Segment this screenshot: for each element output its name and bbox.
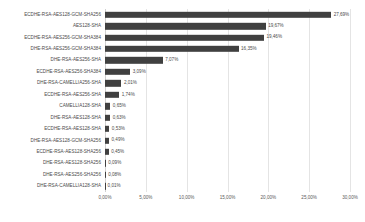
bar-wrapper: 7,07%: [105, 57, 178, 63]
bar[interactable]: [105, 103, 110, 109]
category-label: DHE-RSA-AES128-SHA256: [43, 161, 101, 166]
bar[interactable]: [105, 23, 266, 29]
bar[interactable]: [105, 160, 106, 166]
bar[interactable]: [105, 126, 109, 132]
category-label: ECDHE-RSA-AES256-GCM-SHA384: [24, 35, 101, 40]
bar[interactable]: [105, 69, 130, 75]
bar-row[interactable]: DHE-RSA-CAMELLIA128-SHA0,01%: [105, 181, 350, 192]
value-label: 7,07%: [165, 58, 178, 63]
category-label: DHE-RSA-AES128-SHA: [51, 115, 101, 120]
bar-chart: ECDHE-RSA-AES128-GCM-SHA25627,69%AES128-…: [0, 0, 365, 222]
bar-row[interactable]: DHE-RSA-AES128-GCM-SHA2560,49%: [105, 135, 350, 146]
bar-row[interactable]: ECDHE-RSA-AES128-SHA0,53%: [105, 123, 350, 134]
bar-row[interactable]: ECDHE-RSA-AES256-SHA3843,09%: [105, 66, 350, 77]
value-label: 3,09%: [133, 70, 146, 75]
value-label: 16,35%: [241, 47, 257, 52]
bar-wrapper: 0,45%: [105, 149, 124, 155]
bar-row[interactable]: DHE-RSA-AES128-SHA2560,09%: [105, 158, 350, 169]
value-label: 19,46%: [266, 35, 282, 40]
bar-row[interactable]: ECDHE-RSA-AES128-GCM-SHA25627,69%: [105, 9, 350, 20]
bar-wrapper: 0,53%: [105, 126, 125, 132]
value-label: 0,63%: [113, 115, 126, 120]
bar-wrapper: 0,63%: [105, 114, 126, 120]
category-label: DHE-RSA-AES256-GCM-SHA384: [31, 47, 101, 52]
bar[interactable]: [105, 137, 109, 143]
x-axis-tick-label: 5,00%: [139, 196, 152, 201]
category-label: ECDHE-RSA-AES256-SHA384: [36, 70, 101, 75]
bar-row[interactable]: DHE-RSA-AES256-GCM-SHA38416,35%: [105, 43, 350, 54]
bar-row[interactable]: DHE-RSA-AES128-SHA0,63%: [105, 112, 350, 123]
bar[interactable]: [105, 92, 119, 98]
bar[interactable]: [105, 172, 106, 178]
bar[interactable]: [105, 46, 239, 52]
x-axis: 0,00%5,00%10,00%15,00%20,00%25,00%30,00%: [105, 194, 350, 208]
category-label: ECDHE-RSA-AES128-SHA256: [36, 150, 101, 155]
category-label: DHE-RSA-AES256-SHA256: [43, 173, 101, 178]
x-axis-tick-label: 15,00%: [220, 196, 236, 201]
category-label: DHE-RSA-CAMELLIA128-SHA: [37, 184, 101, 189]
category-label: AES128-SHA: [73, 24, 101, 29]
bar-row[interactable]: CAMELLIA128-SHA0,65%: [105, 101, 350, 112]
x-axis-tick-label: 30,00%: [342, 196, 358, 201]
x-axis-tick-label: 25,00%: [301, 196, 317, 201]
bar-wrapper: 27,69%: [105, 12, 349, 18]
bar-wrapper: 0,08%: [105, 172, 121, 178]
bar-wrapper: 2,01%: [105, 80, 137, 86]
x-axis-tick-label: 20,00%: [261, 196, 277, 201]
bar-wrapper: 0,65%: [105, 103, 126, 109]
bar-wrapper: 0,49%: [105, 137, 125, 143]
bar-wrapper: 1,74%: [105, 92, 135, 98]
bar-row[interactable]: DHE-RSA-CAMELLIA256-SHA2,01%: [105, 78, 350, 89]
bar[interactable]: [105, 57, 163, 63]
bar[interactable]: [105, 34, 264, 40]
bar-wrapper: 19,67%: [105, 23, 284, 29]
value-label: 0,53%: [112, 127, 125, 132]
bar-rows: ECDHE-RSA-AES128-GCM-SHA25627,69%AES128-…: [105, 9, 350, 192]
value-label: 0,09%: [108, 161, 121, 166]
category-label: CAMELLIA128-SHA: [59, 104, 101, 109]
value-label: 0,65%: [113, 104, 126, 109]
value-label: 0,49%: [112, 138, 125, 143]
x-axis-tick-label: 0,00%: [98, 196, 111, 201]
bar-wrapper: 3,09%: [105, 69, 146, 75]
category-label: DHE-RSA-AES128-GCM-SHA256: [31, 138, 101, 143]
bar-wrapper: 0,01%: [105, 183, 121, 189]
bar[interactable]: [105, 12, 331, 18]
category-label: DHE-RSA-AES256-SHA: [51, 58, 101, 63]
bar-row[interactable]: DHE-RSA-AES256-SHA7,07%: [105, 55, 350, 66]
plot-area: ECDHE-RSA-AES128-GCM-SHA25627,69%AES128-…: [105, 9, 350, 192]
value-label: 0,08%: [108, 173, 121, 178]
bar-wrapper: 19,46%: [105, 34, 282, 40]
x-axis-tick-label: 10,00%: [179, 196, 195, 201]
value-label: 2,01%: [124, 81, 137, 86]
bar[interactable]: [105, 80, 121, 86]
bar-row[interactable]: ECDHE-RSA-AES256-GCM-SHA38419,46%: [105, 32, 350, 43]
bar[interactable]: [105, 149, 109, 155]
bar-wrapper: 16,35%: [105, 46, 257, 52]
gridline: [350, 9, 351, 192]
bar[interactable]: [105, 114, 110, 120]
bar-row[interactable]: AES128-SHA19,67%: [105, 20, 350, 31]
category-label: ECDHE-RSA-AES128-GCM-SHA256: [24, 12, 101, 17]
category-label: ECDHE-RSA-AES256-SHA: [44, 92, 101, 97]
bar-wrapper: 0,09%: [105, 160, 121, 166]
value-label: 0,01%: [108, 184, 121, 189]
value-label: 1,74%: [122, 92, 135, 97]
bar-row[interactable]: ECDHE-RSA-AES128-SHA2560,45%: [105, 146, 350, 157]
value-label: 0,45%: [111, 150, 124, 155]
bar-row[interactable]: ECDHE-RSA-AES256-SHA1,74%: [105, 89, 350, 100]
value-label: 19,67%: [268, 24, 284, 29]
value-label: 27,69%: [334, 12, 350, 17]
category-label: ECDHE-RSA-AES128-SHA: [44, 127, 101, 132]
bar-row[interactable]: DHE-RSA-AES256-SHA2560,08%: [105, 169, 350, 180]
category-label: DHE-RSA-CAMELLIA256-SHA: [37, 81, 101, 86]
